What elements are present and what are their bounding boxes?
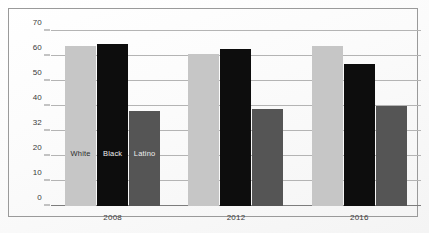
y-axis-tick-label: 60 bbox=[33, 43, 42, 52]
bar-group: 2016 bbox=[298, 31, 421, 206]
y-axis-tick-mark bbox=[44, 155, 50, 156]
y-axis-tick-mark bbox=[44, 30, 50, 31]
bar-group: 2012 bbox=[174, 31, 297, 206]
series-label-black: Black bbox=[103, 149, 122, 158]
bar-latino-2012[interactable] bbox=[252, 109, 283, 207]
bar-white-2008[interactable]: White bbox=[65, 46, 96, 206]
chart-frame-border: 010203240506070WhiteBlackLatino200820122… bbox=[8, 8, 418, 217]
chart-page: 010203240506070WhiteBlackLatino200820122… bbox=[0, 0, 429, 233]
bar-black-2016[interactable] bbox=[344, 64, 375, 207]
series-label-latino: Latino bbox=[134, 149, 156, 158]
y-axis-tick-label: 40 bbox=[33, 93, 42, 102]
plot-area: 010203240506070WhiteBlackLatino200820122… bbox=[51, 31, 421, 206]
y-axis-tick-label: 10 bbox=[33, 168, 42, 177]
bar-latino-2008[interactable]: Latino bbox=[129, 111, 160, 206]
y-axis-tick-label: 70 bbox=[33, 18, 42, 27]
y-axis-tick-mark bbox=[44, 80, 50, 81]
bar-black-2012[interactable] bbox=[220, 49, 251, 207]
bar-white-2012[interactable] bbox=[188, 54, 219, 207]
y-axis-tick-mark bbox=[44, 180, 50, 181]
y-axis-tick-mark bbox=[44, 105, 50, 106]
y-axis-tick-label: 32 bbox=[33, 118, 42, 127]
y-axis-tick-mark bbox=[44, 55, 50, 56]
y-axis-tick-label: 0 bbox=[37, 193, 42, 202]
y-axis-tick-label: 20 bbox=[33, 143, 42, 152]
bar-group: WhiteBlackLatino2008 bbox=[51, 31, 174, 206]
x-axis-category-label: 2016 bbox=[350, 213, 369, 222]
y-axis-tick-label: 50 bbox=[33, 68, 42, 77]
bar-black-2008[interactable]: Black bbox=[97, 44, 128, 207]
x-axis-category-label: 2008 bbox=[103, 213, 122, 222]
x-axis-category-label: 2012 bbox=[227, 213, 246, 222]
series-label-white: White bbox=[71, 149, 91, 158]
y-axis-tick-mark bbox=[44, 205, 50, 206]
bar-white-2016[interactable] bbox=[312, 46, 343, 206]
y-axis-tick-mark bbox=[44, 130, 50, 131]
bar-latino-2016[interactable] bbox=[376, 106, 407, 206]
